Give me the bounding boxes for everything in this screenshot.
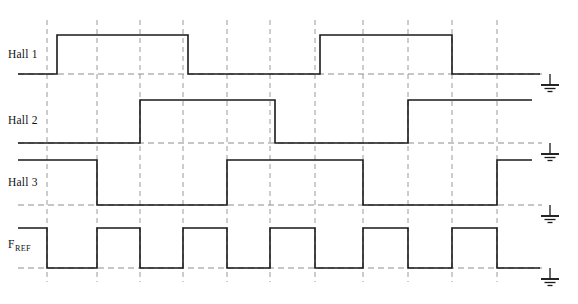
signal-label-text-f-ref: F [8,238,15,250]
signal-labels-group: Hall 1Hall 2Hall 3FREF [8,48,38,253]
waveform-hall-1 [18,35,540,74]
ground-fref [541,268,559,286]
waveform-group [18,35,540,268]
signal-label-hall-2: Hall 2 [8,114,38,126]
timing-diagram-figure: Hall 1Hall 2Hall 3FREF [0,0,578,304]
signal-label-subscript-f-ref: REF [15,244,31,253]
waveform-hall-2 [18,100,532,143]
ground-hall1 [541,74,559,92]
signal-label-text-hall-3: Hall 3 [8,176,38,188]
signal-label-text-hall-1: Hall 1 [8,48,38,60]
signal-label-hall-1: Hall 1 [8,48,38,60]
signal-label-text-hall-2: Hall 2 [8,114,38,126]
grid-lines-group [47,20,497,282]
waveform-f-ref [18,228,540,268]
waveform-hall-3 [18,160,532,205]
signal-label-hall-3: Hall 3 [8,176,38,188]
ground-hall2 [541,143,559,161]
ground-hall3 [541,205,559,223]
signal-label-f-ref: FREF [8,238,31,253]
ground-symbols-group [541,74,559,286]
timing-diagram-canvas: Hall 1Hall 2Hall 3FREF [0,0,578,304]
